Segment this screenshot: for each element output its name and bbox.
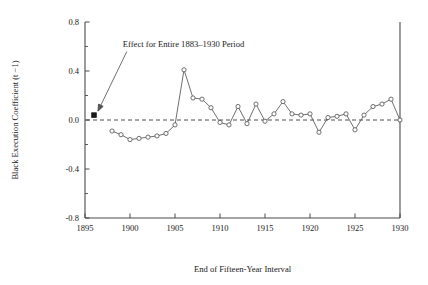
data-point	[299, 113, 303, 117]
data-point	[290, 112, 294, 116]
data-point	[146, 135, 150, 139]
data-point	[200, 97, 204, 101]
data-point	[128, 138, 132, 142]
data-point	[236, 104, 240, 108]
annotation-arrowhead	[98, 104, 103, 111]
data-point	[353, 128, 357, 132]
data-point	[317, 130, 321, 134]
annotation-marker-square	[92, 113, 97, 118]
x-axis-title: End of Fifteen-Year Interval	[194, 264, 292, 274]
data-point	[362, 113, 366, 117]
annotation-layer: Effect for Entire 1883–1930 Period	[92, 39, 245, 118]
data-point	[308, 112, 312, 116]
chart-figure: 189519001905191019151920192519300.80.40.…	[0, 0, 428, 285]
x-tick-label-1930: 1930	[392, 223, 409, 233]
data-point	[209, 106, 213, 110]
data-point	[227, 123, 231, 127]
x-tick-label-1905: 1905	[167, 223, 184, 233]
y-tick-label--0.8: -0.8	[66, 213, 79, 223]
x-tick-label-1920: 1920	[302, 223, 319, 233]
data-point	[173, 123, 177, 127]
data-point	[119, 133, 123, 137]
data-point	[182, 68, 186, 72]
data-point	[164, 131, 168, 135]
x-tick-label-1910: 1910	[212, 223, 229, 233]
data-point	[344, 112, 348, 116]
data-point	[389, 97, 393, 101]
axes: 189519001905191019151920192519300.80.40.…	[66, 17, 409, 233]
annotation-leader-line	[98, 52, 127, 112]
x-tick-label-1915: 1915	[257, 223, 274, 233]
data-point	[218, 120, 222, 124]
x-tick-label-1900: 1900	[122, 223, 139, 233]
y-tick-label-0.4: 0.4	[68, 66, 79, 76]
data-point	[281, 100, 285, 104]
data-series	[110, 68, 402, 142]
data-point	[326, 115, 330, 119]
y-axis-title: Black Execution Coefficient (t −1)	[10, 60, 20, 179]
data-point	[137, 136, 141, 140]
data-point	[191, 96, 195, 100]
data-point	[398, 118, 402, 122]
data-point	[245, 122, 249, 126]
data-point	[335, 114, 339, 118]
data-point	[272, 112, 276, 116]
data-point	[110, 129, 114, 133]
y-tick-label--0.4: -0.4	[66, 164, 80, 174]
data-point	[371, 104, 375, 108]
data-point	[155, 134, 159, 138]
axis-labels: End of Fifteen-Year IntervalBlack Execut…	[10, 60, 292, 274]
series-0	[110, 68, 402, 142]
data-point	[254, 102, 258, 106]
data-point	[263, 119, 267, 123]
x-tick-label-1895: 1895	[77, 223, 94, 233]
annotation-entire-period-effect: Effect for Entire 1883–1930 Period	[92, 39, 245, 118]
x-tick-label-1925: 1925	[347, 223, 364, 233]
annotation-text: Effect for Entire 1883–1930 Period	[123, 39, 245, 49]
chart-container: 189519001905191019151920192519300.80.40.…	[0, 0, 428, 285]
y-tick-label-0.0: 0.0	[68, 115, 79, 125]
data-point	[380, 102, 384, 106]
y-tick-label-0.8: 0.8	[68, 17, 79, 27]
